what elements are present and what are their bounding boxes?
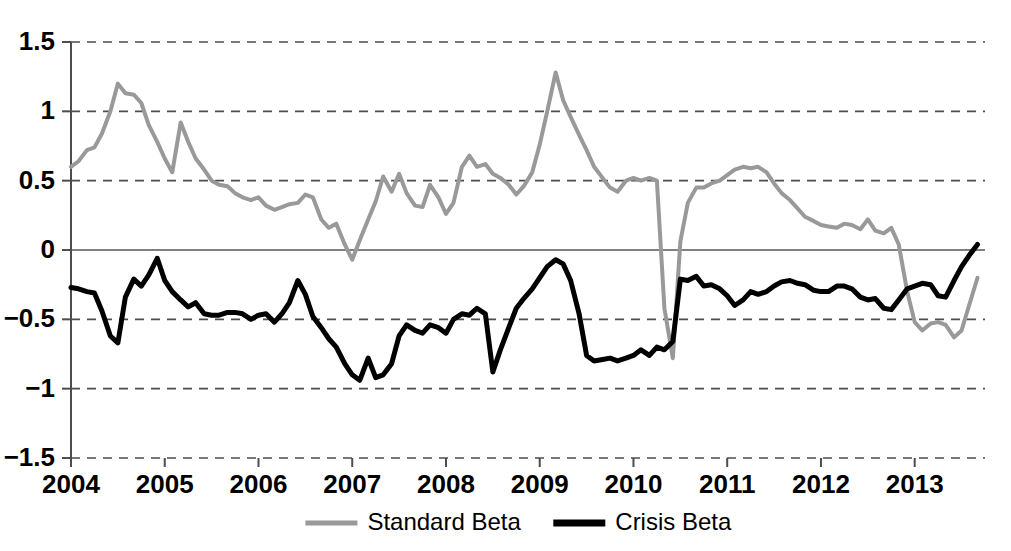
y-tick-label-1: 1 xyxy=(41,95,55,125)
y-tick-label--0.5: −0.5 xyxy=(4,303,55,333)
x-tick-label-2011: 2011 xyxy=(699,469,755,499)
chart-legend: Standard BetaCrisis Beta xyxy=(305,508,732,535)
x-tick-label-2010: 2010 xyxy=(605,469,663,499)
legend-label-0: Standard Beta xyxy=(367,508,521,535)
x-tick-label-2013: 2013 xyxy=(886,469,944,499)
y-tick-label-1.5: 1.5 xyxy=(19,26,55,56)
x-tick-label-2004: 2004 xyxy=(42,469,100,499)
x-tick-label-2005: 2005 xyxy=(136,469,194,499)
y-tick-label-0.5: 0.5 xyxy=(19,165,55,195)
x-tick-label-2007: 2007 xyxy=(323,469,381,499)
beta-comparison-chart: 1.510.50−0.5−1−1.5 200420052006200720082… xyxy=(0,0,1011,551)
x-tick-label-2012: 2012 xyxy=(792,469,850,499)
y-tick-label--1.5: −1.5 xyxy=(4,442,55,472)
x-tick-label-2008: 2008 xyxy=(417,469,475,499)
y-tick-label--1: −1 xyxy=(25,373,55,403)
legend-label-1: Crisis Beta xyxy=(615,508,732,535)
y-tick-label-0: 0 xyxy=(41,234,55,264)
x-tick-label-2009: 2009 xyxy=(511,469,569,499)
x-tick-label-2006: 2006 xyxy=(230,469,288,499)
chart-canvas: 1.510.50−0.5−1−1.5 200420052006200720082… xyxy=(0,0,1011,551)
